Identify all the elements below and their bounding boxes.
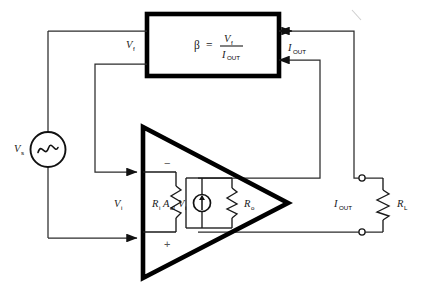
- stray-mark: [352, 10, 361, 20]
- beta-numerator-sub: f: [231, 39, 233, 46]
- beta-equals: =: [206, 39, 213, 51]
- label-gain-voltage-sub: i: [185, 204, 186, 211]
- label-output-current-beta-sub: OUT: [293, 48, 306, 55]
- svg-text:I: I: [333, 198, 338, 209]
- label-source-voltage-sub: s: [21, 149, 24, 156]
- circuit-figure: β = V f I OUT V f I OUT V s V i: [0, 0, 433, 291]
- label-load-resistance: R L: [396, 198, 408, 211]
- svg-text:I: I: [287, 42, 292, 53]
- label-feedback-voltage: V f: [126, 39, 135, 52]
- circuit-diagram-svg: β = V f I OUT V f I OUT V s V i: [0, 0, 433, 291]
- label-output-resistance: R o: [243, 198, 255, 211]
- terminal-output-top: [359, 175, 365, 181]
- label-output-current-load: I OUT: [333, 198, 352, 211]
- svg-text:R: R: [151, 198, 159, 209]
- label-input-voltage-sub: i: [121, 204, 122, 211]
- svg-text:R: R: [396, 198, 404, 209]
- label-input-resistance: R i: [151, 198, 160, 211]
- label-source-voltage: V s: [14, 143, 24, 156]
- label-open-loop-gain: A ol V i: [162, 198, 186, 211]
- wire-feedback-to-inverting: [95, 64, 147, 172]
- beta-block: [147, 14, 279, 76]
- terminal-output-bottom: [359, 229, 365, 235]
- beta-symbol: β: [194, 39, 200, 52]
- resistor-rl: [377, 190, 389, 220]
- label-output-current-load-sub: OUT: [339, 204, 352, 211]
- label-output-current-beta: I OUT: [287, 42, 306, 55]
- beta-denominator-sub: OUT: [227, 54, 240, 61]
- svg-text:R: R: [243, 198, 251, 209]
- svg-text:A: A: [162, 198, 170, 209]
- inverting-input-sign: −: [164, 157, 170, 169]
- beta-denominator: I: [221, 49, 226, 60]
- resistor-ro: [227, 188, 237, 218]
- label-open-loop-gain-sub: ol: [170, 204, 175, 211]
- label-load-resistance-sub: L: [404, 204, 408, 211]
- label-input-resistance-sub: i: [159, 204, 160, 211]
- noninverting-input-sign: +: [164, 238, 170, 250]
- label-feedback-voltage-sub: f: [133, 45, 135, 52]
- label-input-voltage: V i: [114, 198, 122, 211]
- label-output-resistance-sub: o: [251, 204, 255, 211]
